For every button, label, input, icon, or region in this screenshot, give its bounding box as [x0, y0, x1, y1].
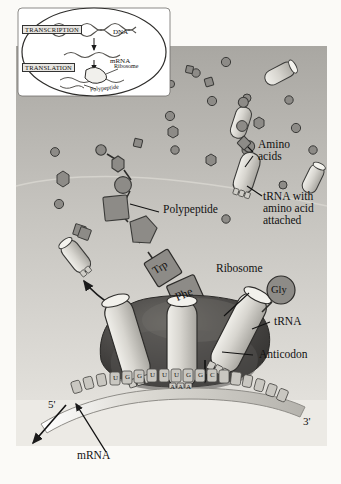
- inset-transcription-box: TRANSCRIPTION: [22, 25, 82, 34]
- five-prime-label: 5': [48, 399, 55, 411]
- trna-label: tRNA: [274, 315, 301, 327]
- diagram-svg: [0, 0, 341, 484]
- residue-hexagon: [112, 156, 124, 172]
- free-circle: [54, 199, 63, 208]
- mrna-base: G: [198, 372, 203, 379]
- free-hexagon: [57, 171, 69, 187]
- free-circle: [171, 146, 179, 154]
- free-circle: [165, 111, 174, 120]
- overview-inset: [18, 8, 170, 96]
- anticodon-label: Anticodon: [259, 348, 308, 360]
- mrna-base: U: [174, 372, 179, 379]
- inset-dna-label: DNA: [113, 28, 128, 36]
- mrna-label: mRNA: [77, 449, 110, 461]
- free-circle: [285, 96, 293, 104]
- residue-circle: [96, 145, 106, 155]
- free-circle: [221, 57, 230, 66]
- free-circle: [51, 148, 60, 157]
- gly-tag: Gly: [271, 284, 287, 295]
- mrna-base: U: [113, 375, 118, 382]
- free-circle: [222, 215, 230, 223]
- residue-square: [103, 195, 129, 221]
- free-square: [133, 138, 143, 148]
- inset-ribosome-label: Ribosome: [114, 63, 138, 69]
- polypeptide-label: Polypeptide: [163, 203, 218, 215]
- anticodon-base: A: [178, 384, 183, 391]
- ribosome-label: Ribosome: [216, 262, 263, 274]
- free-circle: [309, 146, 317, 154]
- anticodon-base: A: [170, 384, 175, 391]
- three-prime-label: 3': [303, 416, 310, 428]
- amino-acid-marker-circle: [237, 121, 248, 132]
- trna-with-amino-acid-label: tRNA with amino acid attached: [263, 190, 314, 226]
- figure-canvas: TRANSCRIPTION TRANSLATION DNA mRNA Ribos…: [0, 0, 341, 484]
- anticodon-base: A: [186, 384, 191, 391]
- mrna-base: U: [162, 372, 167, 379]
- free-square: [185, 65, 193, 73]
- mrna-base: C: [210, 372, 215, 379]
- amino-acids-label: Amino acids: [258, 138, 290, 162]
- free-hexagon: [168, 126, 178, 138]
- translation-figure: TRANSCRIPTION TRANSLATION DNA mRNA Ribos…: [0, 0, 341, 484]
- free-circle: [291, 123, 300, 132]
- free-hexagon: [206, 154, 216, 166]
- mrna-base: G: [125, 374, 130, 381]
- mrna-base: G: [137, 373, 142, 380]
- free-circle: [279, 181, 287, 189]
- inset-translation-box: TRANSLATION: [22, 63, 75, 72]
- free-circle: [207, 96, 216, 105]
- mrna-base: G: [186, 372, 191, 379]
- free-hexagon: [254, 117, 264, 129]
- residue-circle: [115, 177, 132, 194]
- free-square: [204, 77, 214, 87]
- mrna-base: U: [150, 372, 155, 379]
